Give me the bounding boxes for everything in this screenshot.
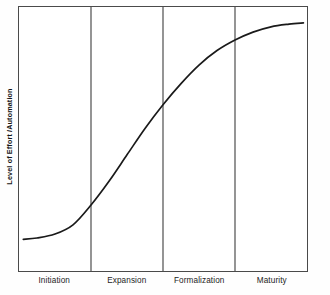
y-axis-label-container: Level of Effort /Automation (0, 0, 18, 272)
plot-svg (19, 7, 307, 271)
chart-figure: Level of Effort /Automation Initiation E… (0, 0, 330, 295)
stage-divider-lines (91, 7, 235, 271)
stage-label-maturity: Maturity (236, 274, 309, 292)
stage-label-expansion: Expansion (91, 274, 164, 292)
plot-area (18, 6, 308, 272)
stage-label-initiation: Initiation (18, 274, 91, 292)
x-axis-stage-labels: Initiation Expansion Formalization Matur… (18, 274, 308, 292)
stage-label-formalization: Formalization (163, 274, 236, 292)
y-axis-label: Level of Effort /Automation (5, 88, 14, 184)
